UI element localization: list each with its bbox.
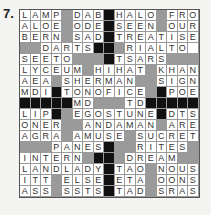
grid-cell[interactable]: N (146, 21, 157, 32)
grid-cell[interactable]: D (52, 164, 63, 175)
grid-cell[interactable]: O (136, 164, 147, 175)
grid-cell[interactable]: L (62, 164, 73, 175)
grid-cell[interactable]: I (31, 109, 42, 120)
grid-cell[interactable]: H (167, 65, 178, 76)
grid-cell[interactable]: R (125, 43, 136, 54)
grid-cell[interactable]: F (167, 10, 178, 21)
grid-cell[interactable]: T (125, 175, 136, 186)
grid-cell[interactable]: O (20, 120, 31, 131)
grid-cell[interactable]: Y (94, 164, 105, 175)
grid-cell[interactable]: N (31, 153, 42, 164)
grid-cell[interactable]: D (167, 109, 178, 120)
grid-cell[interactable]: A (62, 142, 73, 153)
grid-cell[interactable]: F (104, 87, 115, 98)
grid-cell[interactable]: S (73, 32, 84, 43)
grid-cell[interactable]: I (115, 87, 126, 98)
grid-cell[interactable]: L (73, 175, 84, 186)
grid-cell[interactable]: A (136, 175, 147, 186)
grid-cell[interactable]: C (157, 131, 168, 142)
grid-cell[interactable]: M (83, 131, 94, 142)
grid-cell[interactable]: L (31, 21, 42, 32)
grid-cell[interactable]: M (125, 120, 136, 131)
grid-cell[interactable]: O (94, 87, 105, 98)
grid-cell[interactable]: H (115, 65, 126, 76)
grid-cell[interactable]: E (62, 175, 73, 186)
grid-cell[interactable]: O (188, 10, 199, 21)
grid-cell[interactable]: S (188, 109, 199, 120)
grid-cell[interactable]: R (62, 153, 73, 164)
grid-cell[interactable]: A (20, 76, 31, 87)
grid-cell[interactable]: U (94, 131, 105, 142)
grid-cell[interactable]: N (188, 76, 199, 87)
grid-cell[interactable]: A (83, 10, 94, 21)
grid-cell[interactable]: T (41, 175, 52, 186)
grid-cell[interactable]: S (62, 76, 73, 87)
grid-cell[interactable]: O (73, 21, 84, 32)
grid-cell[interactable]: O (167, 175, 178, 186)
grid-cell[interactable]: A (52, 43, 63, 54)
grid-cell[interactable]: R (167, 186, 178, 197)
grid-cell[interactable]: E (31, 54, 42, 65)
grid-cell[interactable]: I (146, 142, 157, 153)
grid-cell[interactable]: D (41, 43, 52, 54)
grid-cell[interactable]: S (157, 186, 168, 197)
grid-cell[interactable]: E (41, 120, 52, 131)
grid-cell[interactable]: I (41, 87, 52, 98)
grid-cell[interactable]: S (125, 54, 136, 65)
grid-cell[interactable]: R (41, 131, 52, 142)
grid-cell[interactable]: E (167, 142, 178, 153)
grid-cell[interactable]: M (73, 65, 84, 76)
grid-cell[interactable]: S (83, 43, 94, 54)
grid-cell[interactable]: O (178, 43, 189, 54)
grid-cell[interactable]: R (41, 32, 52, 43)
grid-cell[interactable]: A (125, 186, 136, 197)
grid-cell[interactable]: N (31, 120, 42, 131)
grid-cell[interactable]: G (178, 76, 189, 87)
grid-cell[interactable]: H (115, 10, 126, 21)
grid-cell[interactable]: P (52, 142, 63, 153)
grid-cell[interactable]: E (178, 131, 189, 142)
grid-cell[interactable]: E (94, 175, 105, 186)
grid-cell[interactable]: A (125, 10, 136, 21)
grid-cell[interactable]: A (31, 164, 42, 175)
grid-cell[interactable]: A (20, 131, 31, 142)
grid-cell[interactable]: T (167, 43, 178, 54)
grid-cell[interactable]: E (52, 65, 63, 76)
grid-cell[interactable]: L (157, 43, 168, 54)
grid-cell[interactable]: P (167, 87, 178, 98)
grid-cell[interactable]: N (83, 87, 94, 98)
grid-cell[interactable]: L (20, 109, 31, 120)
grid-cell[interactable]: B (20, 32, 31, 43)
grid-cell[interactable]: E (136, 87, 147, 98)
grid-cell[interactable]: A (20, 186, 31, 197)
grid-cell[interactable]: E (52, 21, 63, 32)
grid-cell[interactable]: R (125, 32, 136, 43)
grid-cell[interactable]: P (52, 10, 63, 21)
grid-cell[interactable]: U (178, 21, 189, 32)
grid-cell[interactable]: T (31, 175, 42, 186)
grid-cell[interactable]: A (136, 54, 147, 65)
grid-cell[interactable]: E (31, 76, 42, 87)
grid-cell[interactable]: I (20, 175, 31, 186)
grid-cell[interactable]: A (167, 120, 178, 131)
grid-cell[interactable]: N (146, 120, 157, 131)
grid-cell[interactable]: E (73, 109, 84, 120)
grid-cell[interactable]: M (20, 87, 31, 98)
grid-cell[interactable]: E (146, 109, 157, 120)
grid-cell[interactable]: E (115, 175, 126, 186)
grid-cell[interactable]: S (115, 21, 126, 32)
grid-cell[interactable]: S (188, 186, 199, 197)
grid-cell[interactable]: T (52, 54, 63, 65)
grid-cell[interactable]: R (136, 142, 147, 153)
grid-cell[interactable]: A (115, 76, 126, 87)
grid-cell[interactable]: L (20, 65, 31, 76)
grid-cell[interactable]: N (136, 109, 147, 120)
grid-cell[interactable]: T (83, 186, 94, 197)
grid-cell[interactable]: D (94, 32, 105, 43)
grid-cell[interactable]: R (178, 120, 189, 131)
grid-cell[interactable]: U (146, 131, 157, 142)
grid-cell[interactable]: T (157, 142, 168, 153)
grid-cell[interactable]: E (52, 153, 63, 164)
grid-cell[interactable]: L (136, 10, 147, 21)
grid-cell[interactable]: G (83, 109, 94, 120)
